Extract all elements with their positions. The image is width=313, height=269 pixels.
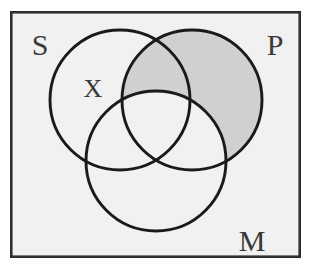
label-set-m: M [239, 224, 266, 257]
venn-diagram-figure: S P M X [0, 0, 313, 269]
venn-diagram-canvas: S P M X [0, 0, 313, 269]
label-set-s: S [32, 28, 49, 61]
panel-grain-overlay [11, 12, 300, 257]
label-mark-x: X [84, 74, 103, 103]
label-set-p: P [267, 28, 284, 61]
